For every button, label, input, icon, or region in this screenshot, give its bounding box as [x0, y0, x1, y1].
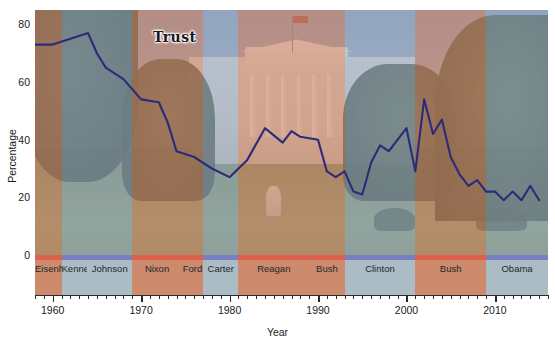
x-tick-minor — [283, 295, 284, 299]
x-tick-major — [230, 295, 232, 302]
x-tick-minor — [274, 295, 275, 299]
x-tick-label: 1980 — [218, 304, 241, 316]
x-tick-minor — [521, 295, 522, 299]
president-label: Carter — [203, 263, 238, 274]
x-tick-minor — [292, 295, 293, 299]
president-label: Ford — [182, 263, 203, 274]
x-tick-minor — [486, 295, 487, 299]
president-label: Nixon — [132, 263, 182, 274]
x-axis-title: Year — [0, 326, 555, 338]
president-label: Clinton — [345, 263, 416, 274]
x-tick-minor — [35, 295, 36, 299]
series-label-trust: Trust — [153, 29, 196, 45]
x-tick-minor — [212, 295, 213, 299]
x-tick-minor — [433, 295, 434, 299]
x-tick-major — [53, 295, 55, 302]
y-tick-label: 40 — [18, 134, 30, 146]
president-label: Kennedy — [62, 263, 88, 274]
x-tick-minor — [132, 295, 133, 299]
x-tick-minor — [123, 295, 124, 299]
x-tick-minor — [460, 295, 461, 299]
president-band-obama: Obama — [486, 260, 548, 295]
president-band-clinton: Clinton — [345, 260, 416, 295]
x-tick-minor — [44, 295, 45, 299]
x-tick-minor — [327, 295, 328, 299]
x-tick-minor — [415, 295, 416, 299]
x-tick-minor — [62, 295, 63, 299]
x-tick-minor — [256, 295, 257, 299]
y-tick-label: 60 — [18, 76, 30, 88]
x-tick-minor — [548, 295, 549, 299]
president-band-reagan: Reagan — [238, 260, 309, 295]
x-tick-major — [495, 295, 497, 302]
x-tick-minor — [362, 295, 363, 299]
x-tick-major — [141, 295, 143, 302]
x-tick-minor — [115, 295, 116, 299]
x-tick-minor — [468, 295, 469, 299]
x-tick-minor — [309, 295, 310, 299]
x-tick-minor — [530, 295, 531, 299]
trust-line-path — [35, 33, 539, 200]
x-tick-minor — [70, 295, 71, 299]
x-tick-minor — [336, 295, 337, 299]
plot-area: Trust — [35, 10, 548, 255]
president-band-bush: Bush — [309, 260, 344, 295]
x-tick-minor — [380, 295, 381, 299]
president-label: Bush — [415, 263, 486, 274]
x-tick-minor — [97, 295, 98, 299]
x-tick-minor — [345, 295, 346, 299]
x-tick-minor — [159, 295, 160, 299]
x-tick-minor — [238, 295, 239, 299]
x-tick-label: 1970 — [129, 304, 152, 316]
x-tick-minor — [168, 295, 169, 299]
x-tick-minor — [88, 295, 89, 299]
x-tick-minor — [150, 295, 151, 299]
x-tick-minor — [177, 295, 178, 299]
president-label: Obama — [486, 263, 548, 274]
president-band-ford: Ford — [182, 260, 203, 295]
x-tick-minor — [300, 295, 301, 299]
y-tick-label: 20 — [18, 191, 30, 203]
x-tick-minor — [451, 295, 452, 299]
president-band-carter: Carter — [203, 260, 238, 295]
y-axis-title: Percentage — [6, 106, 18, 206]
x-tick-minor — [203, 295, 204, 299]
president-band-eisenhower: Eisenhower — [35, 260, 62, 295]
president-band-bush: Bush — [415, 260, 486, 295]
president-band-johnson: Johnson — [87, 260, 132, 295]
x-tick-minor — [247, 295, 248, 299]
x-tick-minor — [265, 295, 266, 299]
x-tick-minor — [477, 295, 478, 299]
president-band-nixon: Nixon — [132, 260, 182, 295]
president-name-strip: EisenhowerKennedyJohnsonNixonFordCarterR… — [35, 260, 548, 295]
x-tick-minor — [353, 295, 354, 299]
x-tick-label: 1960 — [41, 304, 64, 316]
x-tick-minor — [194, 295, 195, 299]
president-label: Eisenhower — [35, 263, 62, 274]
x-tick-minor — [371, 295, 372, 299]
president-band-kennedy: Kennedy — [62, 260, 88, 295]
x-tick-label: 2010 — [483, 304, 506, 316]
trust-line-series — [35, 10, 548, 255]
x-tick-minor — [106, 295, 107, 299]
x-tick-minor — [185, 295, 186, 299]
president-label: Bush — [309, 263, 344, 274]
x-tick-minor — [79, 295, 80, 299]
x-tick-minor — [513, 295, 514, 299]
x-tick-minor — [539, 295, 540, 299]
x-tick-minor — [424, 295, 425, 299]
x-tick-major — [406, 295, 408, 302]
x-tick-minor — [504, 295, 505, 299]
x-tick-minor — [442, 295, 443, 299]
y-tick-label: 0 — [24, 249, 30, 261]
x-tick-major — [318, 295, 320, 302]
x-tick-label: 2000 — [395, 304, 418, 316]
president-label: Johnson — [87, 263, 132, 274]
x-tick-label: 1990 — [306, 304, 329, 316]
x-tick-minor — [221, 295, 222, 299]
y-tick-label: 80 — [18, 18, 30, 30]
x-tick-minor — [398, 295, 399, 299]
trust-in-government-chart: Trust EisenhowerKennedyJohnsonNixonFordC… — [0, 0, 555, 344]
president-label: Reagan — [238, 263, 309, 274]
x-tick-minor — [389, 295, 390, 299]
